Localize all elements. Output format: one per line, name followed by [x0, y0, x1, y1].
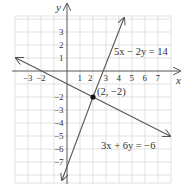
equation-label-2: 3x + 6y = −6: [101, 140, 156, 151]
y-tick: −2: [54, 92, 64, 102]
y-tick: 3: [59, 27, 64, 37]
x-tick: 5: [130, 73, 135, 83]
x-tick: 1: [78, 73, 83, 83]
x-tick: 7: [156, 73, 161, 83]
x-tick: −2: [36, 73, 46, 83]
intersection-point: [90, 94, 95, 99]
y-tick: 1: [59, 53, 64, 63]
x-tick-labels: −3 −2 1 2 3 4 5 6 7: [23, 73, 161, 83]
y-tick: −3: [54, 105, 64, 115]
intersection-label: (2, −2): [97, 86, 126, 98]
x-tick: 2: [88, 73, 93, 83]
y-tick: −6: [54, 144, 64, 154]
x-tick: 4: [117, 73, 122, 83]
y-tick: 2: [59, 40, 64, 50]
x-axis-label: x: [175, 74, 181, 86]
x-tick: −3: [23, 73, 33, 83]
coordinate-plane: x y −3 −2 1 2 3 4 5 6 7 3 2 1 −2 −3 −4 −…: [0, 0, 189, 185]
y-axis-label: y: [55, 1, 61, 13]
y-tick-labels: 3 2 1 −2 −3 −4 −5 −6 −7: [54, 27, 64, 167]
x-tick: 6: [143, 73, 148, 83]
x-tick: 3: [104, 73, 109, 83]
y-tick: −5: [54, 131, 64, 141]
y-tick: −7: [54, 157, 64, 167]
line-3x-plus-6y-eq-neg6: [93, 97, 170, 136]
equation-label-1: 5x − 2y = 14: [114, 46, 169, 57]
y-tick: −4: [54, 118, 64, 128]
